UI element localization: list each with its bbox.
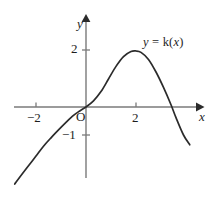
curve-equation-label: y = k(x) <box>143 36 184 49</box>
y-tick-label-2: 2 <box>71 42 78 55</box>
x-tick-label--2: −2 <box>27 111 41 124</box>
equation-paren-close: ) <box>179 35 183 49</box>
plot-canvas <box>0 0 217 200</box>
function-curve <box>15 51 190 184</box>
function-graph-figure: y x O −2 2 2 −1 y = k(x) <box>0 0 217 200</box>
equation-equals: = <box>152 35 159 49</box>
x-axis-label: x <box>199 110 205 123</box>
x-tick-label-2: 2 <box>132 111 139 124</box>
equation-lhs: y <box>143 35 149 49</box>
origin-label: O <box>76 110 85 123</box>
y-tick-label--1: −1 <box>62 128 76 141</box>
y-axis-label: y <box>77 17 83 30</box>
